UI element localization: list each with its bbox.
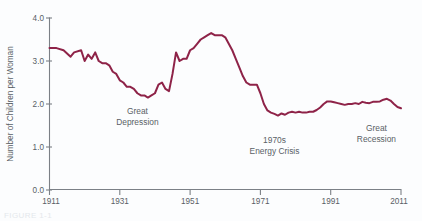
figure-caption: FIGURE 1-1: [4, 211, 52, 220]
chart-figure: Number of Children per Woman 0.0 1.0 2.0…: [0, 0, 422, 221]
x-tick-label-1911: 1911: [42, 197, 60, 206]
y-tick-label-0: 0.0: [33, 186, 45, 195]
y-tick-label-3: 3.0: [33, 57, 45, 66]
annotation-energy-crisis-line2: Energy Crisis: [250, 146, 300, 156]
x-tick-label-2011: 2011: [390, 197, 408, 206]
annotation-great-depression-line2: Depression: [116, 117, 159, 127]
x-tick-label-1971: 1971: [251, 197, 270, 206]
annotation-great-recession-line1: Great: [366, 123, 388, 133]
fertility-rate-series-line: [50, 33, 402, 116]
x-tick-label-1991: 1991: [322, 197, 341, 206]
y-axis-title: Number of Children per Woman: [6, 46, 15, 162]
annotation-great-depression-line1: Great: [127, 106, 149, 116]
annotation-energy-crisis-line1: 1970s: [263, 135, 286, 145]
x-tick-label-1951: 1951: [181, 197, 200, 206]
fertility-rate-line-chart: Number of Children per Woman 0.0 1.0 2.0…: [0, 0, 422, 221]
x-tick-label-1931: 1931: [111, 197, 130, 206]
y-tick-label-4: 4.0: [33, 14, 45, 23]
y-tick-label-1: 1.0: [33, 143, 45, 152]
annotation-great-recession-line2: Recession: [357, 134, 396, 144]
y-tick-label-2: 2.0: [33, 100, 45, 109]
